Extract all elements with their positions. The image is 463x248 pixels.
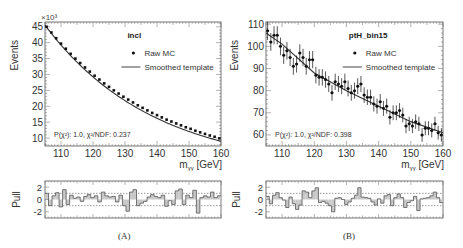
pull-tick-label: 2 [37, 182, 42, 193]
pull-axis-label: Pull [11, 191, 22, 208]
data-point [359, 83, 362, 86]
pull-bar [154, 196, 158, 199]
pull-bar [129, 192, 133, 199]
pull-bar [161, 195, 165, 199]
chart-panel-a: 1101201301401501601015202530354045×10³Ev… [9, 13, 230, 171]
y-tick-label: 60 [253, 129, 265, 140]
data-point [79, 62, 82, 65]
legend-label: Raw MC [144, 49, 175, 58]
pull-bar [384, 196, 387, 200]
pull-bar [203, 196, 207, 200]
data-point [334, 80, 337, 83]
pull-tick-label: 2 [258, 182, 263, 193]
pull-tick-label: 0 [37, 194, 42, 205]
pull-bar [273, 195, 276, 199]
pull-bar [196, 200, 200, 214]
legend-label: Smoothed template [366, 63, 436, 72]
data-point [141, 107, 144, 110]
pull-bar [417, 200, 420, 211]
pull-bar [345, 200, 348, 205]
data-point [209, 134, 212, 137]
data-point [298, 52, 301, 55]
data-point [175, 122, 178, 125]
pull-bar [269, 200, 272, 204]
pull-bar [299, 200, 302, 206]
pull-tick-label: 0 [258, 194, 263, 205]
x-tick-label: 110 [274, 148, 290, 159]
data-point [185, 126, 188, 129]
data-point [369, 96, 372, 99]
data-point [189, 128, 192, 131]
pull-panel-b: -202Pull [231, 181, 443, 218]
data-point [437, 131, 440, 134]
data-point [363, 94, 366, 97]
data-point [89, 70, 92, 73]
x-tick-label: 140 [149, 148, 166, 159]
data-point [376, 105, 379, 108]
pull-bar [276, 193, 279, 200]
data-point [156, 114, 159, 117]
legend-marker-icon [132, 51, 135, 54]
pull-bar [175, 191, 179, 200]
data-point [424, 127, 427, 130]
pull-bar [94, 196, 98, 200]
pull-bar [59, 200, 63, 207]
data-point [308, 58, 311, 61]
data-point [318, 76, 321, 79]
data-point [266, 29, 269, 32]
pull-bar [391, 200, 394, 206]
data-point [132, 101, 135, 104]
pull-bar [105, 196, 109, 200]
pull-tick-label: -2 [34, 206, 42, 217]
caption-b: (B) [343, 231, 355, 241]
x-tick-label: 140 [370, 148, 387, 159]
pull-bar [165, 200, 169, 207]
data-point [421, 133, 424, 136]
y-multiplier: ×10³ [41, 13, 58, 22]
data-point [285, 49, 288, 52]
data-point [350, 91, 353, 94]
data-point [327, 83, 330, 86]
data-point [343, 80, 346, 83]
pull-bar [137, 200, 141, 206]
data-point [379, 100, 382, 103]
pull-bar [358, 188, 361, 200]
data-point [65, 47, 68, 50]
y-tick-label: 45 [32, 21, 44, 32]
pull-bar [126, 200, 130, 212]
pull-bar [112, 196, 116, 199]
panel-title: incl [127, 31, 141, 40]
y-tick-label: 25 [32, 85, 44, 96]
pull-bar [122, 200, 126, 206]
pull-bar [302, 191, 305, 200]
data-point [324, 78, 327, 81]
data-point [69, 52, 72, 55]
data-point [55, 37, 58, 40]
data-point [98, 78, 101, 81]
x-axis-label: mγγ [GeV] [401, 159, 444, 171]
pull-bar [101, 192, 105, 199]
x-tick-label: 120 [85, 148, 102, 159]
legend-label: Smoothed template [144, 63, 214, 72]
data-point [199, 131, 202, 134]
y-tick-label: 100 [247, 41, 264, 52]
legend-marker-icon [353, 51, 356, 54]
pull-bar [193, 190, 197, 199]
data-point [103, 82, 106, 85]
data-point [395, 111, 398, 114]
data-point [218, 137, 221, 140]
data-point [292, 65, 295, 68]
data-point [433, 122, 436, 125]
data-point [161, 116, 164, 119]
pull-bar [210, 192, 214, 199]
data-point [398, 109, 401, 112]
data-point [314, 74, 317, 77]
data-point [430, 129, 433, 132]
fit-annotation: P(χ²): 1.0, χ²/NDF: 0.398 [275, 131, 352, 139]
y-tick-label: 110 [248, 19, 264, 30]
fit-annotation: P(χ²): 1.0, χ²/NDF: 0.237 [54, 131, 131, 139]
x-tick-label: 160 [435, 148, 452, 159]
pull-axis-label: Pull [231, 191, 242, 208]
y-tick-label: 30 [32, 69, 44, 80]
pull-bar [52, 196, 56, 200]
